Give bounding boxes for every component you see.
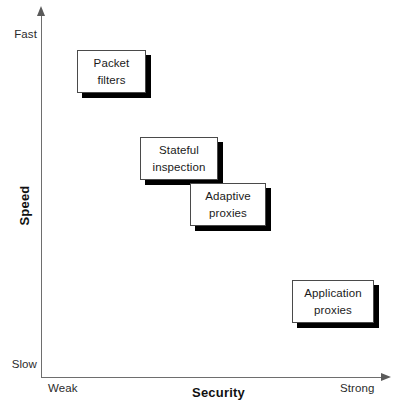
- node-label-line1: Stateful: [159, 142, 199, 159]
- y-axis-arrow-icon: [37, 6, 45, 16]
- y-axis-bottom-label: Slow: [12, 358, 37, 370]
- node-adaptive-proxies[interactable]: Adaptive proxies: [190, 183, 266, 226]
- node-application-proxies[interactable]: Application proxies: [292, 280, 374, 323]
- node-label-line2: proxies: [209, 205, 247, 222]
- y-axis-line: [41, 14, 42, 378]
- y-axis-title: Speed: [17, 166, 32, 246]
- x-axis-title: Security: [0, 385, 402, 400]
- node-label-line2: proxies: [314, 302, 352, 319]
- node-stateful-inspection[interactable]: Stateful inspection: [140, 137, 218, 180]
- y-axis-top-label: Fast: [14, 28, 37, 40]
- node-label-line1: Adaptive: [205, 188, 251, 205]
- node-label-line2: inspection: [153, 159, 206, 176]
- node-body: Adaptive proxies: [190, 183, 266, 226]
- node-body: Stateful inspection: [140, 137, 218, 180]
- speed-vs-security-diagram: Fast Slow Weak Strong Security Speed Pac…: [0, 0, 402, 415]
- node-body: Packet filters: [77, 50, 146, 93]
- node-label-line1: Packet: [94, 55, 130, 72]
- x-axis-arrow-icon: [381, 373, 391, 381]
- node-packet-filters[interactable]: Packet filters: [77, 50, 146, 93]
- node-body: Application proxies: [292, 280, 374, 323]
- x-axis-line: [41, 377, 385, 378]
- node-label-line2: filters: [97, 72, 125, 89]
- node-label-line1: Application: [304, 285, 361, 302]
